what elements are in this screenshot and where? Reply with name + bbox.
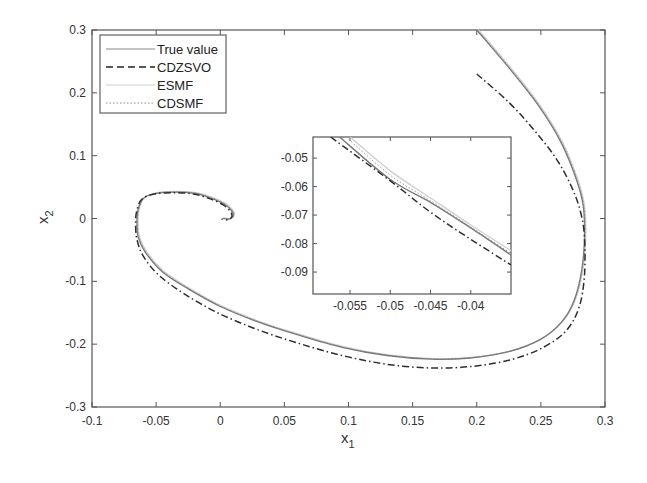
legend: True valueCDZSVOESMFCDSMF — [100, 35, 226, 113]
y-tick-label: -0.3 — [65, 400, 86, 414]
x-tick-label: 0.2 — [468, 414, 485, 428]
inset-x-tick-label: -0.045 — [413, 299, 447, 313]
x-tick-label: 0.15 — [401, 414, 425, 428]
inset-axes: -0.055-0.05-0.045-0.04-0.05-0.06-0.07-0.… — [281, 137, 511, 313]
inset-frame — [313, 137, 511, 294]
x-tick-label: 0.05 — [273, 414, 297, 428]
x-tick-label: 0.3 — [597, 414, 614, 428]
y-tick-label: 0.1 — [69, 149, 86, 163]
x-tick-label: 0.1 — [340, 414, 357, 428]
inset-x-tick-label: -0.04 — [457, 299, 485, 313]
legend-label: CDSMF — [157, 96, 203, 111]
x-tick-label: 0.25 — [529, 414, 553, 428]
inset-y-tick-label: -0.06 — [281, 180, 309, 194]
inset-y-tick-label: -0.08 — [281, 237, 309, 251]
x-tick-label: 0 — [217, 414, 224, 428]
legend-label: ESMF — [157, 78, 193, 93]
x-tick-label: -0.05 — [142, 414, 170, 428]
x-tick-label: -0.1 — [82, 414, 103, 428]
chart-canvas: -0.1-0.0500.050.10.150.20.250.3-0.3-0.2-… — [0, 0, 647, 483]
legend-label: True value — [157, 42, 218, 57]
y-tick-label: 0.2 — [69, 86, 86, 100]
inset-y-tick-label: -0.05 — [281, 151, 309, 165]
y-tick-label: 0.3 — [69, 23, 86, 37]
y-tick-label: -0.2 — [65, 337, 86, 351]
x-axis-label: x1 — [341, 429, 355, 450]
y-tick-label: -0.1 — [65, 274, 86, 288]
inset-x-tick-label: -0.055 — [333, 299, 367, 313]
y-axis-label: x2 — [34, 210, 55, 224]
inset-y-tick-label: -0.09 — [281, 265, 309, 279]
inset-y-tick-label: -0.07 — [281, 208, 309, 222]
inset-x-tick-label: -0.05 — [377, 299, 405, 313]
legend-label: CDZSVO — [157, 60, 211, 75]
y-tick-label: 0 — [79, 212, 86, 226]
